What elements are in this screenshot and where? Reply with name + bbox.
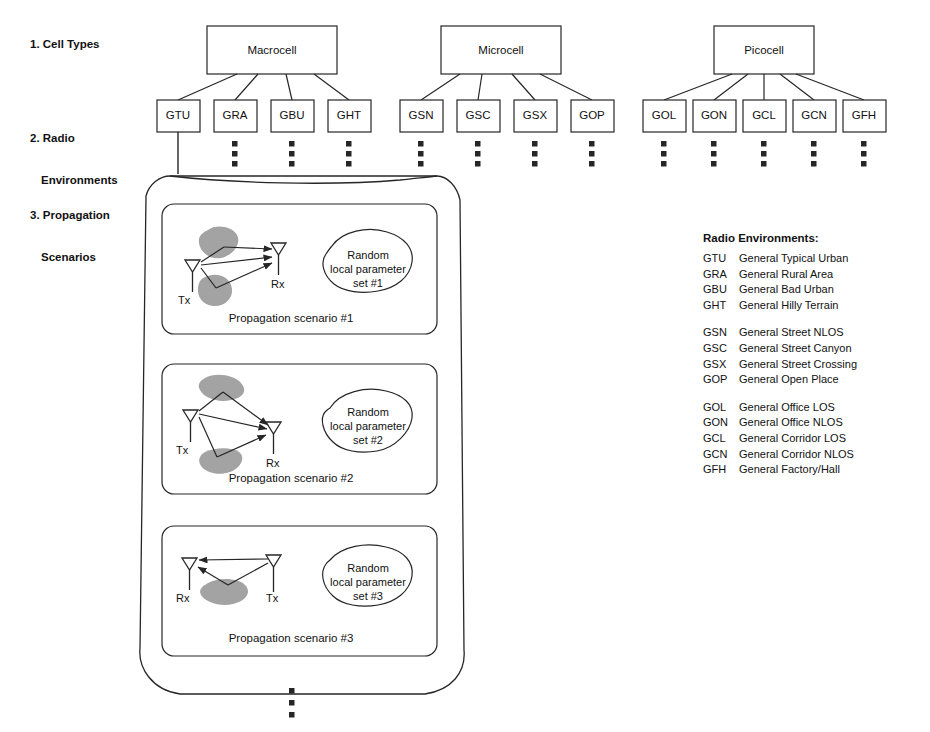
legend-desc: General Corridor LOS (739, 431, 918, 447)
legend-desc: General Bad Urban (739, 282, 918, 298)
container-ellipsis-dots (289, 688, 295, 718)
legend-spacer (703, 388, 918, 400)
scenario-1-rx-label: Rx (271, 278, 284, 290)
vertical-ellipsis-dots (232, 141, 867, 167)
radio-environment-boxes (157, 100, 886, 132)
scenario-1-blob-text: Random local parameter set #1 (330, 248, 406, 290)
legend-item: GSC General Street Canyon (703, 341, 918, 357)
scatterer-blob (198, 275, 232, 306)
radio-label-gsx: GSX (523, 109, 547, 121)
radio-environments-legend: Radio Environments: GTU General Typical … (703, 232, 918, 478)
legend-desc: General Open Place (739, 372, 918, 388)
legend-desc: General Rural Area (739, 267, 918, 283)
legend-item: GSN General Street NLOS (703, 325, 918, 341)
scenario-3-caption: Propagation scenario #3 (229, 632, 354, 644)
scenario-2-blob-text: Random local parameter set #2 (330, 405, 406, 447)
radio-label-gfh: GFH (852, 109, 876, 121)
radio-label-ght: GHT (337, 109, 361, 121)
legend-item: GTU General Typical Urban (703, 251, 918, 267)
scenario-2-tx-label: Tx (176, 444, 188, 456)
legend-item: GBU General Bad Urban (703, 282, 918, 298)
legend-item: GOP General Open Place (703, 372, 918, 388)
scenario-3-blob-text: Random local parameter set #3 (330, 561, 406, 603)
cell-type-label-picocell: Picocell (744, 44, 784, 56)
legend-group-microcell: GSN General Street NLOS GSC General Stre… (703, 325, 918, 387)
legend-item: GFH General Factory/Hall (703, 462, 918, 478)
radio-label-gcn: GCN (801, 109, 827, 121)
legend-desc: General Street Canyon (739, 341, 918, 357)
legend-code: GCN (703, 447, 739, 463)
legend-item: GON General Office NLOS (703, 415, 918, 431)
radio-label-gon: GON (701, 109, 727, 121)
legend-code: GRA (703, 267, 739, 283)
legend-code: GOL (703, 400, 739, 416)
radio-label-gsn: GSN (409, 109, 434, 121)
blob-line: set #1 (330, 276, 406, 290)
legend-code: GOP (703, 372, 739, 388)
legend-group-picocell: GOL General Office LOS GON General Offic… (703, 400, 918, 478)
radio-label-gop: GOP (579, 109, 605, 121)
legend-code: GTU (703, 251, 739, 267)
legend-code: GSN (703, 325, 739, 341)
legend-item: GCN General Corridor NLOS (703, 447, 918, 463)
radio-label-gtu: GTU (166, 109, 190, 121)
legend-desc: General Factory/Hall (739, 462, 918, 478)
row-label-radio-environments-line1: 2. Radio (30, 131, 118, 145)
scenario-2-caption: Propagation scenario #2 (229, 472, 354, 484)
legend-group-macrocell: GTU General Typical Urban GRA General Ru… (703, 251, 918, 313)
legend-spacer (703, 313, 918, 325)
legend-title: Radio Environments: (703, 232, 918, 244)
legend-code: GCL (703, 431, 739, 447)
blob-line: set #3 (330, 589, 406, 603)
radio-label-gbu: GBU (280, 109, 305, 121)
blob-line: Random (330, 561, 406, 575)
row-label-cell-types: 1. Cell Types (30, 37, 99, 51)
legend-desc: General Typical Urban (739, 251, 918, 267)
scenario-2-rx-label: Rx (266, 457, 279, 469)
diagram-root: 1. Cell Types 2. Radio Environments 3. P… (0, 0, 930, 732)
scenario-3-rx-label: Rx (176, 592, 189, 604)
cell-type-label-microcell: Microcell (478, 44, 523, 56)
legend-desc: General Street NLOS (739, 325, 918, 341)
legend-code: GHT (703, 298, 739, 314)
blob-line: local parameter (330, 575, 406, 589)
legend-item: GHT General Hilly Terrain (703, 298, 918, 314)
scenario-1-tx-label: Tx (178, 294, 190, 306)
legend-desc: General Office NLOS (739, 415, 918, 431)
legend-desc: General Office LOS (739, 400, 918, 416)
cell-type-label-macrocell: Macrocell (247, 44, 296, 56)
row-label-propagation-scenarios: 3. Propagation Scenarios (30, 180, 110, 292)
tree-connectors (178, 74, 864, 100)
legend-item: GOL General Office LOS (703, 400, 918, 416)
scenario-1-caption: Propagation scenario #1 (229, 312, 354, 324)
blob-line: local parameter (330, 262, 406, 276)
legend-desc: General Street Crossing (739, 357, 918, 373)
legend-desc: General Hilly Terrain (739, 298, 918, 314)
radio-label-gcl: GCL (752, 109, 776, 121)
legend-code: GBU (703, 282, 739, 298)
radio-label-gsc: GSC (466, 109, 491, 121)
legend-item: GRA General Rural Area (703, 267, 918, 283)
legend-code: GSX (703, 357, 739, 373)
legend-item: GCL General Corridor LOS (703, 431, 918, 447)
blob-line: local parameter (330, 419, 406, 433)
legend-code: GFH (703, 462, 739, 478)
radio-label-gol: GOL (652, 109, 676, 121)
legend-code: GON (703, 415, 739, 431)
blob-line: Random (330, 248, 406, 262)
legend-code: GSC (703, 341, 739, 357)
scenario-3-tx-label: Tx (266, 592, 278, 604)
legend-desc: General Corridor NLOS (739, 447, 918, 463)
row-label-propagation-scenarios-line1: 3. Propagation (30, 208, 110, 222)
legend-item: GSX General Street Crossing (703, 357, 918, 373)
radio-label-gra: GRA (223, 109, 248, 121)
blob-line: Random (330, 405, 406, 419)
blob-line: set #2 (330, 433, 406, 447)
row-label-propagation-scenarios-line2: Scenarios (30, 250, 110, 264)
